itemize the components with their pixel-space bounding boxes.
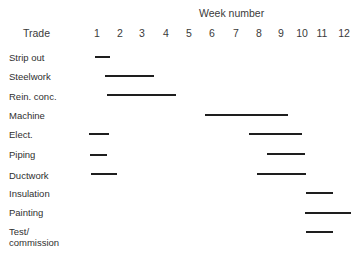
week-tick-label: 1 [94,27,100,39]
week-tick-label: 4 [163,27,169,39]
schedule-bar [91,173,117,175]
trade-label: Steelwork [9,71,51,82]
week-tick-label: 8 [256,27,262,39]
week-tick-label: 5 [186,27,192,39]
trade-label: Strip out [9,52,44,63]
week-number-title: Week number [199,7,264,19]
trade-label: Machine [9,110,45,121]
week-tick-label: 10 [296,27,308,39]
week-tick-label: 11 [317,27,328,39]
week-tick-label: 2 [117,27,123,39]
trade-label: Insulation [9,188,50,199]
schedule-bar [306,192,333,194]
schedule-bar [267,153,305,155]
trade-label: Test/commission [9,226,59,248]
week-tick-label: 6 [209,27,215,39]
trade-label: Painting [9,207,43,218]
schedule-bar [90,154,107,156]
week-tick-label: 7 [233,27,239,39]
schedule-bar [306,231,333,233]
schedule-bar [107,94,176,96]
schedule-bar [205,114,288,116]
schedule-bar [257,173,306,175]
schedule-bar [249,133,302,135]
week-tick-label: 12 [338,27,350,39]
schedule-bar [95,56,110,58]
trade-label: Ductwork [9,170,49,181]
schedule-bar [89,133,109,135]
trade-label: Rein. conc. [9,91,57,102]
trade-column-header: Trade [23,27,50,39]
week-tick-label: 9 [278,27,284,39]
trade-label: Piping [9,149,35,160]
week-tick-label: 3 [139,27,145,39]
schedule-bar [305,212,351,214]
trade-label: Elect. [9,129,33,140]
schedule-bar [105,75,154,77]
